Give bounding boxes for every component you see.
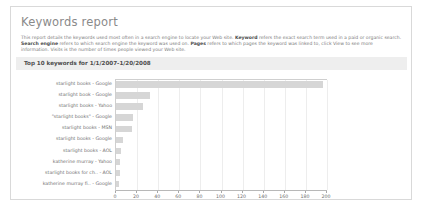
bar: [116, 181, 119, 187]
bar-label: starlight books - MSN: [62, 125, 112, 130]
x-tick: [199, 191, 200, 193]
bar: [116, 148, 121, 154]
description-text-4: refers to which search engine the keywor…: [58, 41, 190, 46]
page-title: Keywords report: [21, 15, 118, 29]
x-tick: [305, 191, 306, 193]
chart-rows: starlight books - Googlestarlight book -…: [16, 79, 327, 191]
bar: [116, 126, 132, 132]
bar-label: starlight books - Google: [56, 136, 112, 141]
chart-row: starlight books - Google: [16, 79, 327, 90]
chart-row: "starlight books" - Google: [16, 112, 327, 123]
x-tick-label: 180: [300, 194, 309, 199]
gridline: [327, 80, 328, 190]
chart-row: starlight books - AOL: [16, 146, 327, 157]
chart-row: katherine murray fi.. - Google: [16, 179, 327, 190]
report-description: This report details the keywords used mo…: [21, 35, 402, 54]
x-tick: [326, 191, 327, 193]
report-page: Keywords report This report details the …: [0, 0, 422, 216]
chart-row: starlight books - MSN: [16, 123, 327, 134]
description-text-0: This report details the keywords used mo…: [21, 35, 235, 40]
bar-label: starlight books - Google: [56, 81, 112, 86]
bar-label: starlight books - AOL: [63, 148, 112, 153]
keywords-report-panel: Keywords report This report details the …: [10, 6, 412, 200]
x-tick-label: 0: [114, 194, 117, 199]
bar: [116, 170, 120, 176]
keywords-bar-chart: starlight books - Googlestarlight book -…: [16, 75, 407, 197]
x-tick-label: 20: [133, 194, 139, 199]
x-tick: [242, 191, 243, 193]
x-tick: [115, 191, 116, 193]
chart-row: starlight book - Google: [16, 90, 327, 101]
bar: [116, 92, 150, 98]
chart-row: starlight books for ch.. - AOL: [16, 168, 327, 179]
chart-row: starlight books - Google: [16, 134, 327, 145]
x-tick-label: 160: [279, 194, 288, 199]
x-tick-label: 80: [196, 194, 202, 199]
bar-label: katherine murray - Yahoo: [53, 159, 112, 164]
x-tick-label: 60: [175, 194, 181, 199]
x-tick: [178, 191, 179, 193]
bar: [116, 103, 143, 109]
bar: [116, 159, 120, 165]
bar: [116, 81, 323, 87]
description-text-2: refers the exact search term used in a p…: [257, 35, 401, 40]
bar: [116, 137, 123, 143]
x-tick: [157, 191, 158, 193]
x-tick-label: 100: [216, 194, 225, 199]
bar-label: starlight book - Google: [58, 92, 112, 97]
chart-row: starlight books - Yahoo: [16, 101, 327, 112]
description-term-3: Search engine: [21, 41, 58, 46]
description-term-1: Keyword: [235, 35, 258, 40]
x-axis: 020406080100120140160180200: [115, 191, 327, 203]
section-header-label: Top 10 keywords for 1/1/2007-1/20/2008: [24, 60, 151, 66]
x-tick: [136, 191, 137, 193]
description-term-5: Pages: [190, 41, 205, 46]
x-tick-label: 120: [237, 194, 246, 199]
x-tick-label: 40: [154, 194, 160, 199]
bar-label: starlight books - Yahoo: [59, 103, 112, 108]
x-tick: [263, 191, 264, 193]
bar-label: "starlight books" - Google: [52, 114, 112, 119]
bar-label: starlight books for ch.. - AOL: [45, 170, 112, 175]
bar-label: katherine murray fi.. - Google: [43, 181, 112, 186]
bar: [116, 114, 133, 120]
section-header-band: Top 10 keywords for 1/1/2007-1/20/2008: [16, 57, 407, 70]
x-tick: [284, 191, 285, 193]
x-tick-label: 200: [322, 194, 331, 199]
x-tick: [221, 191, 222, 193]
x-tick-label: 140: [258, 194, 267, 199]
chart-row: katherine murray - Yahoo: [16, 157, 327, 168]
